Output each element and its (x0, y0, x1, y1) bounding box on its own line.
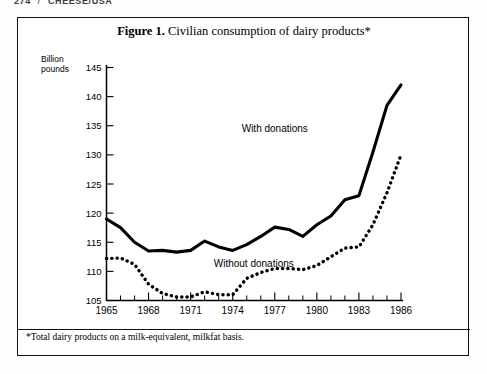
figure-title-text: Civilian consumption of dairy products* (168, 24, 371, 38)
figure-label: Figure 1. (117, 24, 165, 38)
figure-title: Figure 1. Civilian consumption of dairy … (18, 24, 470, 39)
figure-container: Figure 1. Civilian consumption of dairy … (17, 17, 469, 356)
running-head: 274/CHEESE/USA (14, 0, 112, 8)
running-head-section: CHEESE/USA (48, 0, 113, 6)
running-head-page-number: 274 (14, 0, 31, 6)
footnote-divider (18, 329, 470, 330)
document-page: 274/CHEESE/USA Figure 1. Civilian consum… (0, 0, 487, 374)
running-head-separator: / (38, 0, 41, 6)
figure-footnote: *Total dairy products on a milk-equivale… (26, 332, 462, 342)
